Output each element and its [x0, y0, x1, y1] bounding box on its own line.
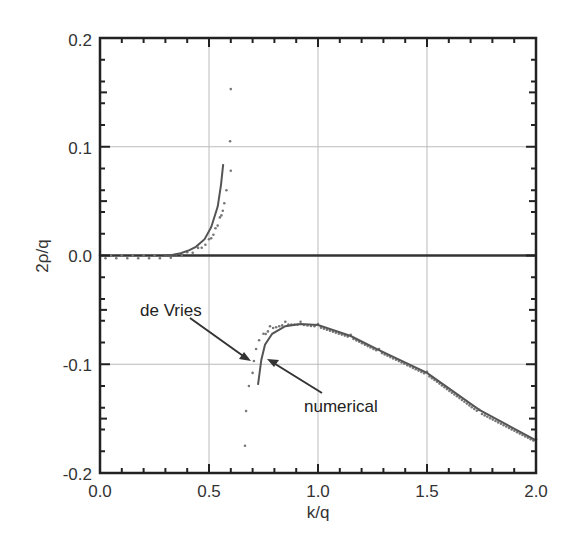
x-tick-label: 1.0	[306, 482, 330, 501]
x-tick-label: 0.5	[197, 482, 221, 501]
y-axis-title: 2ρ/q	[33, 239, 52, 272]
x-tick-label: 0.0	[88, 482, 112, 501]
annotation-numerical: numerical	[304, 397, 378, 416]
x-tick-label: 1.5	[415, 482, 439, 501]
arrow-icon	[190, 318, 251, 361]
x-axis-title: k/q	[307, 503, 330, 522]
x-tick-label: 2.0	[524, 482, 548, 501]
y-tick-label: -0.1	[63, 356, 92, 375]
annotation-de-vries: de Vries	[140, 301, 202, 320]
y-tick-label: 0.2	[68, 31, 92, 50]
chart: 0.0 0.5 1.0 1.5 2.0 -0.2 -0.1 0.0 0.1 0.…	[0, 0, 579, 550]
y-tick-label: -0.2	[63, 465, 92, 484]
y-tick-label: 0.1	[68, 139, 92, 158]
y-tick-label: 0.0	[68, 247, 92, 266]
